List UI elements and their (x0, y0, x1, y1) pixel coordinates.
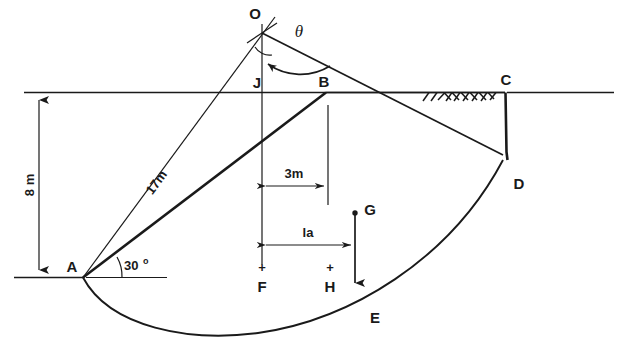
slope-angle-arc-30 (117, 257, 122, 278)
depth-dimension-label: 8 m (22, 174, 37, 196)
point-label-j: J (253, 74, 261, 91)
point-label-b: B (319, 73, 330, 90)
point-label-f: F (257, 278, 266, 295)
centroid-cross-h: + (326, 260, 334, 275)
diagram-canvas: 8 m 17m θ 30 o 3m (0, 0, 618, 352)
dimension-label-la: la (303, 225, 315, 240)
point-label-d: D (514, 175, 525, 192)
point-label-g: G (364, 201, 376, 218)
excavation-wall-cd (506, 93, 508, 161)
dimension-label-3m: 3m (285, 166, 304, 181)
radius-line-od (262, 33, 503, 155)
point-label-a: A (67, 258, 78, 275)
depth-dimension-8m: 8 m (22, 100, 39, 270)
ground-hatching (423, 93, 496, 102)
dimension-3m: 3m (266, 166, 324, 186)
dimension-lever-arm: la (266, 225, 351, 245)
centroid-cross-f: + (258, 260, 266, 275)
point-label-c: C (501, 71, 512, 88)
point-label-e: E (370, 309, 380, 326)
theta-angle-label: θ (295, 22, 303, 41)
slope-stability-diagram: 8 m 17m θ 30 o 3m (0, 0, 618, 352)
theta-inner-arc (255, 47, 272, 55)
slope-angle-degree-symbol: o (143, 256, 149, 266)
point-label-o: O (249, 5, 261, 22)
radius-line-ao (83, 17, 275, 278)
radius-label-17m: 17m (143, 167, 171, 197)
point-label-h: H (325, 278, 336, 295)
slope-angle-label: 30 (124, 258, 138, 273)
wedge-line-ab (83, 93, 326, 278)
